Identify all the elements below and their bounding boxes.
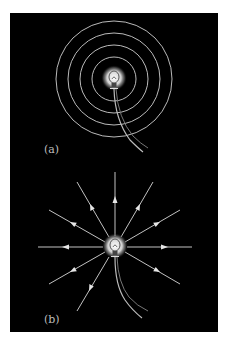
ray bbox=[125, 210, 180, 242]
ray bbox=[49, 252, 105, 284]
panel-a-cord bbox=[114, 89, 148, 152]
arrow-icon bbox=[153, 222, 160, 227]
arrow-icon bbox=[70, 267, 77, 272]
panel-b-label: (b) bbox=[44, 313, 60, 326]
arrow-icon bbox=[161, 245, 168, 250]
arrow-icon bbox=[70, 222, 77, 227]
panel-b-bulb-icon bbox=[102, 233, 128, 259]
panel-a-bulb-icon bbox=[101, 65, 127, 91]
panel-b-cord bbox=[115, 257, 148, 318]
arrow-icon bbox=[153, 267, 160, 272]
ray bbox=[125, 252, 180, 284]
panel-a-label: (a) bbox=[44, 143, 59, 156]
arrow-icon bbox=[90, 204, 95, 211]
arrow-icon bbox=[89, 284, 94, 291]
figure-drawing: (a) bbox=[0, 0, 229, 345]
arrow-icon bbox=[113, 196, 118, 203]
arrow-icon bbox=[135, 204, 140, 211]
arrow-icon bbox=[62, 245, 69, 250]
